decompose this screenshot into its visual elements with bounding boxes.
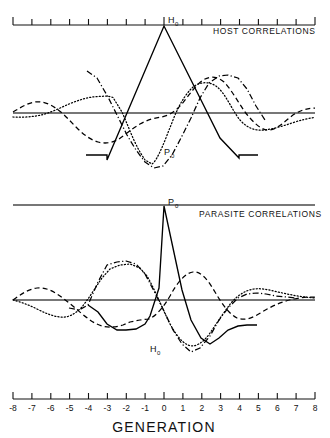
tick-label: 3	[218, 403, 223, 413]
tick-label: 5	[256, 403, 261, 413]
x-axis: -8 -7 -6 -5 -4 -3 -2 -1 0 1 2 3 4 5 6 7 …	[9, 392, 317, 435]
svg-text:H: H	[168, 15, 175, 25]
panel-parasite: PARASITE CORRELATIONS P 0 H 0	[13, 197, 322, 356]
x-axis-ticks	[13, 392, 315, 399]
svg-text:0: 0	[175, 21, 179, 27]
parasite-series-solid	[88, 206, 257, 344]
host-p0-label: P 0	[164, 147, 175, 159]
parasite-h0-label: H 0	[150, 344, 161, 356]
parasite-panel-title: PARASITE CORRELATIONS	[199, 209, 322, 219]
parasite-series-dashdot	[69, 261, 296, 352]
correlation-figure: HOST CORRELATIONS H 0 P 0 PARASITE CORRE…	[0, 0, 330, 438]
parasite-p0-label: P 0	[168, 197, 179, 209]
svg-text:P: P	[168, 197, 174, 207]
tick-label: -3	[104, 403, 112, 413]
host-axis-ticks	[13, 17, 315, 25]
host-series-dashdot	[87, 71, 265, 168]
tick-label: 1	[181, 403, 186, 413]
tick-label: -4	[85, 403, 93, 413]
x-axis-title: GENERATION	[112, 419, 216, 435]
tick-label: 7	[294, 403, 299, 413]
tick-label: -6	[47, 403, 55, 413]
svg-text:0: 0	[171, 153, 175, 159]
tick-label: 0	[162, 403, 167, 413]
tick-label: 8	[313, 403, 318, 413]
panel-host: HOST CORRELATIONS H 0 P 0	[13, 15, 315, 168]
host-panel-title: HOST CORRELATIONS	[213, 26, 315, 36]
svg-text:0: 0	[157, 350, 161, 356]
svg-text:0: 0	[175, 203, 179, 209]
tick-label: -7	[28, 403, 36, 413]
tick-label: 6	[275, 403, 280, 413]
tick-label: 2	[199, 403, 204, 413]
tick-label: -5	[66, 403, 74, 413]
tick-label: 4	[237, 403, 242, 413]
host-series-dashed	[13, 77, 315, 143]
tick-label: -8	[9, 403, 17, 413]
tick-label: -2	[123, 403, 131, 413]
x-axis-tick-labels: -8 -7 -6 -5 -4 -3 -2 -1 0 1 2 3 4 5 6 7 …	[9, 403, 317, 413]
svg-text:P: P	[164, 147, 170, 157]
host-top-axis	[13, 17, 315, 25]
tick-label: -1	[141, 403, 149, 413]
svg-text:H: H	[150, 344, 157, 354]
